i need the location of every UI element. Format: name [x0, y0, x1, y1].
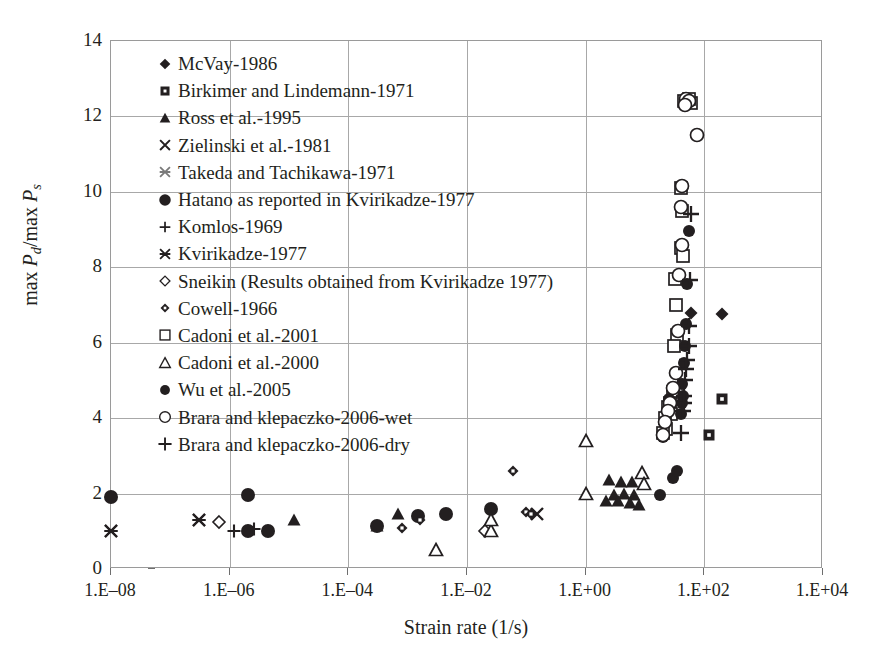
legend-item-label: Cadoni et al.-2000: [178, 353, 319, 372]
legend-item[interactable]: Komlos-1969: [152, 213, 612, 240]
data-point: [502, 460, 524, 482]
data-point: [680, 92, 702, 114]
legend-item[interactable]: Brara and klepaczko-2006-wet: [152, 403, 612, 430]
legend-marker-icon: [152, 163, 178, 181]
legend-item[interactable]: Hatano as reported in Kvirikadze-1977: [152, 186, 612, 213]
legend-item-label: Cowell-1966: [178, 299, 277, 318]
data-point: [649, 484, 671, 506]
data-point: [667, 320, 689, 342]
x-axis-tick-mark: [585, 568, 586, 575]
data-point: [676, 349, 698, 371]
data-point: [711, 303, 733, 325]
data-point: [387, 503, 409, 525]
data-point: [675, 313, 697, 335]
data-point: [610, 471, 632, 493]
data-point: [674, 335, 696, 357]
legend-item[interactable]: Kvirikadze-1977: [152, 240, 612, 267]
x-axis-tick-mark: [110, 568, 111, 575]
y-axis-title-text: max Pd/max Ps: [19, 184, 41, 306]
data-point: [680, 302, 702, 324]
data-point: [188, 509, 210, 531]
data-point: [237, 484, 259, 506]
legend-item[interactable]: Sneikin (Results obtained from Kvirikadz…: [152, 268, 612, 295]
legend-marker-icon: [152, 82, 178, 100]
legend-item[interactable]: Wu et al.-2005: [152, 376, 612, 403]
data-point: [474, 520, 496, 542]
legend-item[interactable]: Brara and klepaczko-2006-dry: [152, 431, 612, 458]
data-point: [698, 424, 720, 446]
x-axis-tick-mark: [347, 568, 348, 575]
data-point: [663, 335, 685, 357]
data-point: [678, 220, 700, 242]
data-point: [673, 352, 695, 374]
legend-item[interactable]: Takeda and Tachikawa-1971: [152, 159, 612, 186]
legend: McVay-1986Birkimer and Lindemann-1971Ros…: [152, 50, 612, 458]
data-point: [659, 392, 681, 414]
x-axis-tick-mark: [703, 568, 704, 575]
legend-item-label: Wu et al.-2005: [178, 380, 291, 399]
data-point: [673, 90, 695, 112]
legend-marker-icon: [152, 435, 178, 453]
y-axis-tick-label: 6: [62, 332, 102, 351]
data-point: [672, 245, 694, 267]
data-point: [100, 486, 122, 508]
data-point: [603, 484, 625, 506]
data-point: [425, 539, 447, 561]
data-point: [657, 396, 679, 418]
data-point: [652, 426, 674, 448]
data-point: [631, 462, 653, 484]
data-point: [670, 403, 692, 425]
data-point: [366, 515, 388, 537]
y-axis-tick-label: 8: [62, 256, 102, 275]
gridline-horizontal: [111, 494, 821, 495]
data-point: [655, 418, 677, 440]
data-point: [208, 511, 230, 533]
legend-item[interactable]: McVay-1986: [152, 50, 612, 77]
legend-marker-icon: [152, 299, 178, 317]
legend-item[interactable]: Cadoni et al.-2000: [152, 349, 612, 376]
legend-item[interactable]: Cowell-1966: [152, 295, 612, 322]
data-point: [666, 460, 688, 482]
y-axis-tick-label: 2: [62, 483, 102, 502]
data-point: [665, 294, 687, 316]
data-point: [633, 473, 655, 495]
legend-item[interactable]: Zielinski et al.-1981: [152, 132, 612, 159]
data-point: [100, 520, 122, 542]
legend-marker-icon: [152, 218, 178, 236]
data-point: [243, 518, 265, 540]
legend-item-label: Brara and klepaczko-2006-wet: [178, 408, 412, 427]
legend-marker-icon: [152, 326, 178, 344]
x-axis-tick-label: 1.E–04: [292, 580, 402, 600]
legend-item[interactable]: Cadoni et al.-2001: [152, 322, 612, 349]
legend-marker-icon: [152, 245, 178, 263]
data-point: [515, 501, 537, 523]
legend-item-label: Hatano as reported in Kvirikadze-1977: [178, 190, 475, 209]
x-axis-tick-mark: [229, 568, 230, 575]
legend-marker-icon: [152, 191, 178, 209]
legend-item[interactable]: Ross et al.-1995: [152, 104, 612, 131]
data-point: [100, 520, 122, 542]
data-point: [675, 88, 697, 110]
legend-item-label: Sneikin (Results obtained from Kvirikadz…: [178, 272, 553, 291]
data-point: [671, 373, 693, 395]
legend-marker-icon: [152, 354, 178, 372]
data-point: [188, 509, 210, 531]
data-point: [678, 315, 700, 337]
data-point: [598, 469, 620, 491]
x-axis-tick-label: 1.E–02: [411, 580, 521, 600]
x-axis-tick-mark: [822, 568, 823, 575]
data-point: [391, 517, 413, 539]
data-point: [675, 358, 697, 380]
y-axis-tick-label: 0: [62, 558, 102, 577]
data-point: [673, 385, 695, 407]
data-point: [628, 494, 650, 516]
legend-marker-icon: [152, 408, 178, 426]
data-point: [670, 196, 692, 218]
data-point: [480, 498, 502, 520]
y-axis-tick-mark: [148, 568, 155, 569]
data-point: [520, 503, 542, 525]
legend-item[interactable]: Birkimer and Lindemann-1971: [152, 77, 612, 104]
data-point: [678, 335, 700, 357]
legend-item-label: Cadoni et al.-2001: [178, 326, 319, 345]
y-axis-tick-label: 4: [62, 407, 102, 426]
